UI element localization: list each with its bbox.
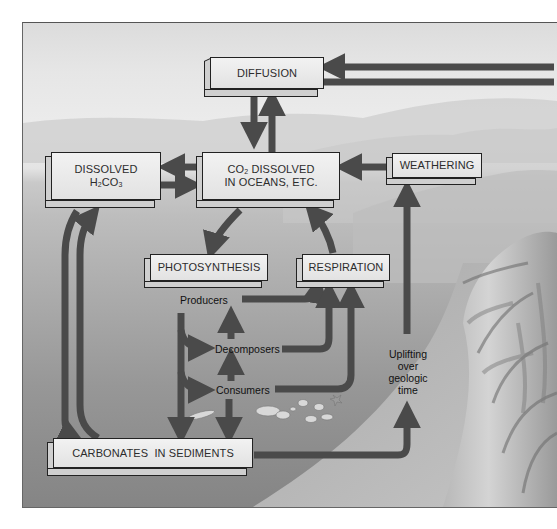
label-uplifting-over-geologic-time: Uplifting over geologic time xyxy=(383,348,433,396)
box-co2-dissolved: CO2 DISSOLVED IN OCEANS, ETC. xyxy=(196,152,340,208)
label-decomposers: Decomposers xyxy=(215,343,280,355)
arrow-producers-to-respiration xyxy=(242,288,317,299)
box-carbonates-in-sediments: CARBONATES IN SEDIMENTS xyxy=(47,438,253,476)
box-photosynthesis: PHOTOSYNTHESIS xyxy=(144,254,268,288)
label-consumers: Consumers xyxy=(216,384,270,396)
arrow-consumers-to-respiration xyxy=(275,293,351,389)
label-producers: Producers xyxy=(180,294,228,306)
co2-dissolved-line2: IN OCEANS, ETC. xyxy=(224,176,317,189)
arrow-carbonates-to-h2co3 xyxy=(80,215,98,438)
carbonates-label: CARBONATES IN SEDIMENTS xyxy=(72,447,234,460)
arrow-h2co3-to-carbonates xyxy=(65,211,77,438)
diffusion-label: DIFFUSION xyxy=(237,67,297,80)
box-diffusion: DIFFUSION xyxy=(204,57,324,97)
h2co3-formula: H2CO3 xyxy=(90,176,123,189)
arrow-carbonates-to-uplifting xyxy=(254,413,407,455)
box-respiration: RESPIRATION xyxy=(296,254,390,288)
respiration-label: RESPIRATION xyxy=(309,261,384,274)
dissolved-label: DISSOLVED xyxy=(74,163,137,176)
weathering-label: WEATHERING xyxy=(400,159,475,172)
arrow-co2-to-photosynthesis xyxy=(212,210,240,248)
arrow-respiration-to-co2 xyxy=(313,212,333,253)
photosynthesis-label: PHOTOSYNTHESIS xyxy=(158,261,261,274)
co2-dissolved-line1: CO2 DISSOLVED xyxy=(228,163,315,176)
box-weathering: WEATHERING xyxy=(386,153,482,185)
box-dissolved-h2co3: DISSOLVED H2CO3 xyxy=(45,152,161,208)
